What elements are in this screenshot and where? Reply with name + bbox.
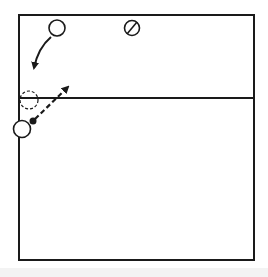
diagram-canvas xyxy=(0,0,268,277)
dashed-circle-icon xyxy=(20,91,38,109)
player-circle-icon xyxy=(14,121,31,138)
page-edge xyxy=(0,268,268,277)
court-boundary xyxy=(19,15,254,260)
ball-path-arrow-icon xyxy=(35,87,68,119)
court-diagram xyxy=(0,0,268,277)
player-circle-icon xyxy=(49,20,65,36)
slashed-circle-icon xyxy=(125,21,140,36)
movement-arrow-icon xyxy=(34,37,51,68)
